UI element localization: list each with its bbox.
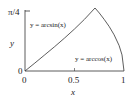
x-axis-label: x [70, 87, 75, 97]
arccos-label: y = arccos(x) [75, 55, 113, 63]
chart: π/4 0 y 0 0.5 1 x y = arcsin(x) y = arcc… [0, 0, 132, 98]
y-axis-label: y [9, 38, 14, 48]
x-tick-label-one: 1 [121, 75, 126, 85]
x-tick-label-half: 0.5 [68, 75, 80, 85]
y-tick-label-top: π/4 [8, 7, 20, 17]
x-tick-label-zero: 0 [22, 75, 27, 85]
arcsin-label: y = arcsin(x) [30, 21, 66, 29]
